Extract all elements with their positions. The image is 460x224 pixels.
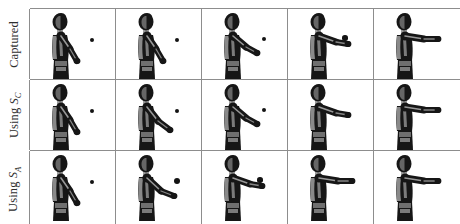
ball-marker [257,177,263,183]
row-label-row-using-sa: Using SA [0,151,30,224]
figure-motion-capture-grid: Captured [0,0,460,224]
frame-cell [374,80,460,150]
character-figure [288,151,373,224]
character-figure [374,9,460,79]
row-label-text: Captured [7,21,22,68]
frame-cell [30,9,116,79]
character-figure [288,80,373,150]
character-figure [116,80,201,150]
frame-cell [116,80,202,150]
frame-cell [30,80,116,150]
character-figure [374,151,460,224]
character-figure [116,9,201,79]
character-figure [202,151,287,224]
frame-cell [116,151,202,224]
character-figure [202,80,287,150]
ball-marker [174,178,180,184]
character-figure [116,151,201,224]
row-label-text: Using SC [6,92,23,138]
row-label-row-using-sc: Using SC [0,80,30,150]
character-figure [30,151,115,224]
frame-cell [374,9,460,79]
frame-row: Captured [30,9,460,80]
frame-row: Using SC [30,80,460,151]
frame-grid: Captured [30,8,460,224]
frame-row: Using SA [30,151,460,224]
frame-cell [30,151,116,224]
frame-cell [116,9,202,79]
frame-cell [374,151,460,224]
row-label-text: Using SA [6,166,23,211]
frame-cell [202,80,288,150]
character-figure [30,80,115,150]
character-figure [374,80,460,150]
character-figure [202,9,287,79]
frame-cell [288,80,374,150]
frame-cell [288,9,374,79]
row-label-row-captured: Captured [0,9,30,79]
character-figure [288,9,373,79]
character-figure [30,9,115,79]
frame-cell [288,151,374,224]
frame-cell [202,9,288,79]
frame-cell [202,151,288,224]
ball-marker [342,35,348,41]
